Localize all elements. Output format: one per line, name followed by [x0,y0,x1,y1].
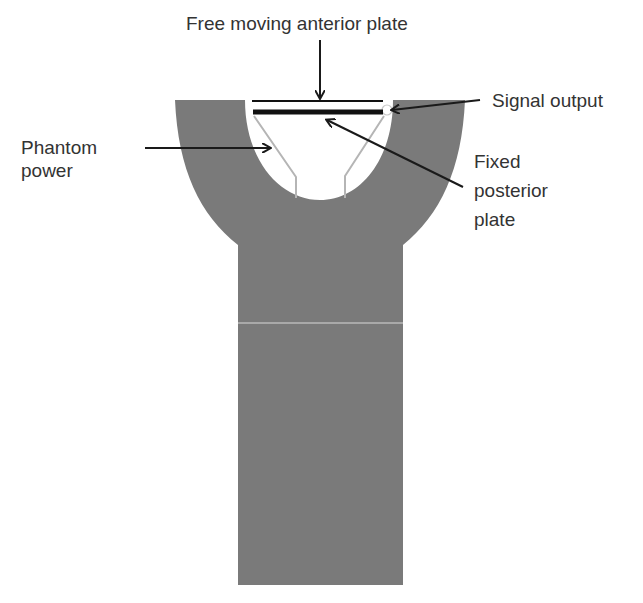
label-phantom-power-2: power [21,159,73,182]
label-phantom-power-1: Phantom [21,136,97,159]
label-posterior-plate-3: plate [474,208,515,231]
label-posterior-plate-2: posterior [474,179,548,202]
label-signal-output: Signal output [492,89,603,112]
label-anterior-plate: Free moving anterior plate [186,12,408,35]
signal-output-terminal [382,105,392,115]
label-posterior-plate-1: Fixed [474,150,520,173]
microphone-head [175,100,465,585]
